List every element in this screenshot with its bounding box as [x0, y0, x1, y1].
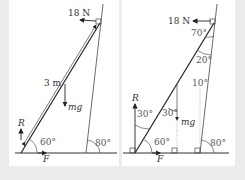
force-18n-arrow	[80, 20, 96, 21]
reaction-label: R	[131, 93, 139, 103]
wall-angle-label: 80°	[210, 138, 226, 148]
top-angle-label: 70°	[191, 28, 207, 38]
mg-ladder-angle-label: 30°	[162, 108, 178, 118]
weight-label: mg	[68, 102, 83, 112]
right-diagram: 18 N 70° 20° 10° mg 30° R 30° 60° F 80°	[123, 4, 229, 164]
angle-arc-60	[143, 139, 152, 153]
force-18n-label: 18 N	[168, 16, 190, 26]
angle-arc-60	[29, 139, 37, 153]
friction-label: F	[156, 154, 164, 164]
left-diagram: 18 N 3 m mg R 60° F 80°	[15, 4, 117, 164]
weight-label: mg	[181, 117, 196, 127]
wall-vertical-angle-label: 10°	[192, 78, 208, 88]
ladder-angle-label: 60°	[154, 137, 170, 147]
angle-arc-30-r	[135, 125, 149, 129]
right-angle-mark-wall	[195, 148, 200, 153]
force-18n-label: 18 N	[68, 8, 90, 18]
right-angle-mark-mg	[172, 148, 177, 153]
right-angle-mark-r	[130, 148, 135, 153]
reaction-label: R	[17, 118, 25, 128]
ladder-diagrams: 18 N 3 m mg R 60° F 80° 18 N 70° 20° 10°…	[0, 0, 245, 180]
wall-angle-label: 80°	[95, 138, 111, 148]
length-label: 3 m	[44, 78, 62, 88]
r-ladder-angle-label: 30°	[137, 109, 153, 119]
friction-label: F	[42, 154, 50, 164]
wall-ladder-angle-label: 20°	[196, 55, 212, 65]
ladder-angle-label: 60°	[40, 137, 56, 147]
wall-line	[86, 4, 103, 153]
